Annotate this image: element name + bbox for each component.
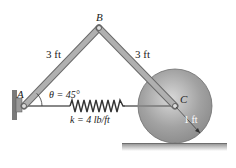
label-a: A [17, 89, 24, 100]
label-ab-length: 3 ft [46, 49, 61, 60]
label-spring-constant: k = 4 lb/ft [70, 115, 110, 125]
label-c: C [180, 94, 187, 105]
label-angle: θ = 45° [49, 90, 80, 100]
link-bc [99, 28, 175, 106]
label-bc-length: 3 ft [135, 49, 150, 60]
label-b: B [96, 12, 103, 23]
pin-b [97, 26, 102, 31]
label-radius: 1 ft [184, 115, 198, 125]
diagram-canvas [0, 0, 236, 168]
pin-a [22, 104, 27, 109]
mechanism-diagram: A B C 3 ft 3 ft θ = 45° k = 4 lb/ft 1 ft [0, 0, 236, 168]
ground [122, 143, 227, 151]
spring [70, 100, 125, 112]
